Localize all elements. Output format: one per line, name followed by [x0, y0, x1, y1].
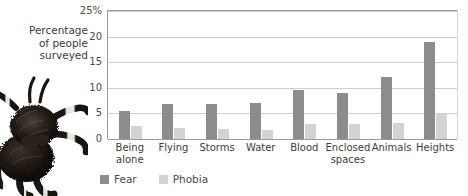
chart-legend: Fear Phobia	[100, 173, 208, 185]
legend-swatch-fear	[100, 175, 109, 184]
y-tick-label-0: 0	[42, 133, 102, 144]
legend-label-fear: Fear	[114, 173, 137, 185]
bar-fear-2[interactable]	[206, 104, 217, 139]
bar-fear-6[interactable]	[381, 77, 392, 139]
y-tick-label-10: 10	[42, 82, 102, 93]
bar-series-container	[108, 11, 457, 139]
bar-fear-5[interactable]	[337, 93, 348, 139]
bar-phobia-4[interactable]	[305, 124, 316, 139]
bar-phobia-0[interactable]	[131, 126, 142, 139]
legend-item-phobia[interactable]: Phobia	[159, 173, 208, 185]
bar-phobia-1[interactable]	[174, 128, 185, 139]
bar-fear-4[interactable]	[293, 90, 304, 139]
y-tick-label-5: 5	[42, 107, 102, 118]
bar-fear-7[interactable]	[424, 42, 435, 139]
bar-fear-1[interactable]	[162, 104, 173, 139]
legend-item-fear[interactable]: Fear	[100, 173, 137, 185]
y-tick-label-25: 25%	[42, 5, 102, 16]
bar-phobia-7[interactable]	[436, 113, 447, 139]
y-tick-label-20: 20	[42, 31, 102, 42]
bar-fear-0[interactable]	[119, 111, 130, 139]
bar-phobia-2[interactable]	[218, 129, 229, 139]
legend-swatch-phobia	[159, 175, 168, 184]
bar-phobia-6[interactable]	[393, 123, 404, 139]
category-label-7: Heights	[409, 142, 461, 154]
y-tick-label-15: 15	[42, 56, 102, 67]
gridline-0	[108, 139, 457, 140]
bar-phobia-3[interactable]	[262, 130, 273, 139]
legend-label-phobia: Phobia	[173, 173, 208, 185]
x-axis-category-labels: Being aloneFlyingStormsWaterBloodEnclose…	[108, 142, 457, 172]
bar-fear-3[interactable]	[250, 103, 261, 139]
bar-phobia-5[interactable]	[349, 124, 360, 139]
